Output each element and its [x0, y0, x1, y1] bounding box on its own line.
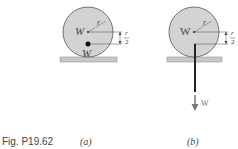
offset-label-den-b: 2 — [231, 38, 235, 46]
dimension-a — [119, 32, 122, 44]
radius-label-b: r — [203, 18, 206, 27]
caption-b: (b) — [187, 136, 199, 147]
caption-a: (a) — [80, 136, 92, 147]
center-weight-label-a: W — [75, 25, 84, 37]
point-weight-label-a: W — [82, 47, 91, 59]
force-arrow-head-icon — [192, 104, 199, 111]
offset-label-num-b: r — [231, 29, 234, 37]
force-label-b: W — [201, 99, 209, 108]
panel-b — [167, 7, 228, 111]
offset-label-den-a: 2 — [125, 38, 129, 46]
figure-label: Fig. P19.62 — [2, 136, 53, 147]
offset-label-num-a: r — [125, 29, 128, 37]
point-mass-a — [86, 42, 91, 47]
dimension-b — [225, 32, 228, 44]
center-weight-label-b: W — [180, 25, 190, 37]
radius-label-a: r — [97, 18, 100, 27]
